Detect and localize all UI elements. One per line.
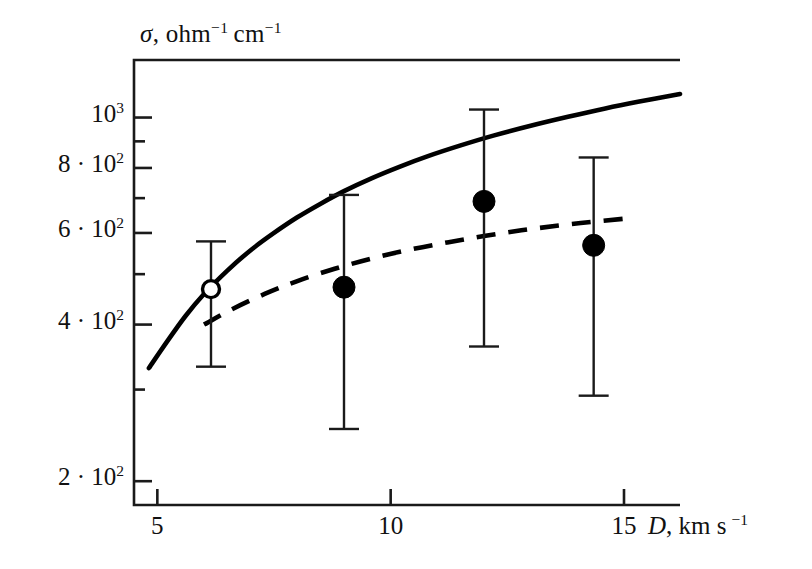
x-axis-label: D, km s −1 — [648, 512, 748, 540]
y-tick-label: 2 · 102 — [58, 463, 124, 491]
y-tick-base: 10 — [91, 463, 116, 490]
y-tick-coef: 6 · — [58, 215, 91, 242]
x-tick-label: 5 — [117, 512, 197, 540]
y-tick-exp: 2 — [116, 214, 124, 231]
data-point-filled — [583, 234, 605, 256]
y-tick-coef: 8 · — [58, 150, 91, 177]
y-tick-base: 10 — [91, 150, 116, 177]
y-tick-coef: 2 · — [58, 463, 91, 490]
y-tick-label: 103 — [91, 100, 124, 128]
y-tick-base: 10 — [91, 307, 116, 334]
solid-model-curve — [149, 94, 680, 368]
x-axis-major-ticks — [157, 489, 624, 505]
data-point-filled — [333, 276, 355, 298]
error-bars — [196, 110, 609, 429]
data-markers — [203, 190, 605, 298]
y-tick-label: 8 · 102 — [58, 150, 124, 178]
y-tick-base: 10 — [91, 100, 116, 127]
x-axis-label-rest: , km s — [666, 512, 726, 539]
y-tick-exp: 2 — [116, 149, 124, 166]
dashed-model-curve — [204, 219, 624, 325]
y-tick-coef: 4 · — [58, 307, 91, 334]
x-axis-label-symbol: D — [648, 512, 666, 539]
figure-container: σ, ohm−1 cm−1 2 · 1024 · 1026 · 1028 · 1… — [0, 0, 812, 569]
x-tick-label: 10 — [351, 512, 431, 540]
y-tick-exp: 2 — [116, 305, 124, 322]
y-tick-base: 10 — [91, 215, 116, 242]
data-point-filled — [473, 190, 495, 212]
data-point-open — [203, 281, 220, 298]
y-tick-label: 6 · 102 — [58, 215, 124, 243]
y-tick-exp: 3 — [116, 98, 124, 115]
y-tick-exp: 2 — [116, 462, 124, 479]
y-axis-major-ticks — [134, 118, 152, 482]
y-tick-label: 4 · 102 — [58, 307, 124, 335]
x-axis-label-exp: −1 — [732, 511, 749, 528]
y-axis-minor-ticks — [134, 141, 145, 389]
